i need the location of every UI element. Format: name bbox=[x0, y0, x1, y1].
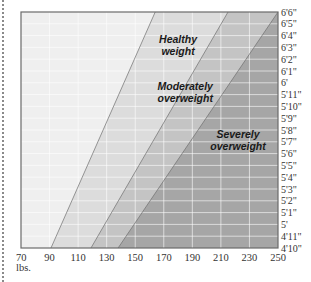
x-tick-label: 250 bbox=[270, 252, 286, 263]
y-tick-label: 6'6" bbox=[281, 7, 297, 18]
y-tick-label: 5'10" bbox=[281, 101, 302, 112]
y-tick-label: 6'5" bbox=[281, 18, 297, 29]
zone-label: Healthyweight bbox=[159, 33, 198, 57]
y-tick-label: 6'2" bbox=[281, 54, 297, 65]
x-tick-label: 230 bbox=[242, 252, 258, 263]
y-tick-label: 5'8" bbox=[281, 125, 297, 136]
y-tick-label: 6' bbox=[281, 77, 288, 88]
x-tick-label: 130 bbox=[99, 252, 115, 263]
zone-label: Severelyoverweight bbox=[210, 128, 266, 152]
y-tick-label: 5'11" bbox=[281, 89, 302, 100]
zone-label: Moderatelyoverweight bbox=[157, 80, 214, 104]
y-tick-label: 4'11" bbox=[281, 231, 302, 242]
y-tick-label: 5'5" bbox=[281, 160, 297, 171]
y-tick-label: 5'7" bbox=[281, 136, 297, 147]
y-tick-label: 5' bbox=[281, 219, 288, 230]
x-tick-label: 210 bbox=[213, 252, 229, 263]
y-tick-label: 6'1" bbox=[281, 66, 297, 77]
y-tick-label: 6'4" bbox=[281, 30, 297, 41]
x-unit-label: lbs. bbox=[16, 262, 31, 273]
x-tick-label: 190 bbox=[184, 252, 200, 263]
y-tick-label: 5'3" bbox=[281, 184, 297, 195]
x-tick-label: 110 bbox=[70, 252, 85, 263]
x-tick-label: 170 bbox=[156, 252, 172, 263]
y-tick-label: 5'6" bbox=[281, 148, 297, 159]
y-tick-label: 5'2" bbox=[281, 195, 297, 206]
x-tick-label: 150 bbox=[127, 252, 143, 263]
y-tick-label: 5'1" bbox=[281, 207, 297, 218]
y-tick-label: 5'4" bbox=[281, 172, 297, 183]
weight-height-chart: HealthyweightModeratelyoverweightSeverel… bbox=[0, 0, 311, 282]
y-tick-label: 6'3" bbox=[281, 42, 297, 53]
x-tick-label: 90 bbox=[44, 252, 55, 263]
y-tick-label: 5'9" bbox=[281, 113, 297, 124]
y-axis-height-ticks: 4'10"4'11"5'5'1"5'2"5'3"5'4"5'5"5'6"5'7"… bbox=[281, 7, 302, 254]
x-axis-weight-ticks: 7090110130150170190210230250lbs. bbox=[16, 252, 286, 273]
